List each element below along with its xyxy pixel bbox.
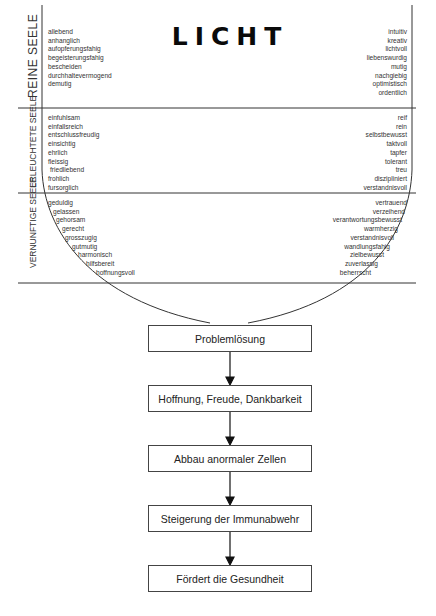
flow-box-abbau-zellen: Abbau anormaler Zellen	[148, 445, 312, 472]
flow-box-label: Steigerung der Immunabwehr	[161, 513, 299, 525]
list-item: nachgiebig	[367, 72, 407, 81]
list-item: hilfsbereit	[48, 260, 135, 269]
list-item: selbstbewusst	[363, 131, 407, 140]
list-item: liebenswurdig	[367, 54, 407, 63]
list-item: demutig	[48, 80, 112, 89]
flow-box-immunabwehr: Steigerung der Immunabwehr	[148, 505, 312, 532]
list-item: verstandnisvoll	[363, 184, 407, 193]
vernunftige-seele-left-list: geduldig gelassen gehorsam gerecht gross…	[48, 199, 135, 277]
list-item: anhanglich	[48, 37, 112, 46]
flow-box-label: Fördert die Gesundheit	[176, 573, 283, 585]
list-item: taktvoll	[363, 140, 407, 149]
list-item: friedliebend	[48, 166, 99, 175]
list-item: frohlich	[48, 175, 99, 184]
list-item: verantwortungsbewusst	[333, 216, 407, 225]
list-item: verstandnisvoll	[333, 234, 407, 243]
list-item: kreativ	[367, 37, 407, 46]
list-item: durchhaltevermogend	[48, 72, 112, 81]
erleuchtete-seele-right-list: reif rein selbstbewusst taktvoll tapfer …	[363, 114, 407, 192]
list-item: bescheiden	[48, 63, 112, 72]
list-item: allebend	[48, 28, 112, 37]
list-item: mutig	[367, 63, 407, 72]
list-item: einsichtig	[48, 140, 99, 149]
list-item: fleissig	[48, 158, 99, 167]
list-item: treu	[363, 166, 407, 175]
list-item: gerecht	[48, 225, 135, 234]
list-item: harmonisch	[48, 251, 135, 260]
reine-seele-left-list: allebend anhanglich aufopferungsfahig be…	[48, 28, 112, 89]
list-item: begeisterungsfahig	[48, 54, 112, 63]
list-item: hoffnungsvoll	[48, 269, 135, 278]
list-item: tapfer	[363, 149, 407, 158]
list-item: warmherzig	[333, 225, 407, 234]
list-item: beherrscht	[333, 269, 407, 278]
list-item: tolerant	[363, 158, 407, 167]
flow-box-problemloesung: Problemlösung	[148, 325, 312, 352]
flow-box-gesundheit: Fördert die Gesundheit	[148, 565, 312, 592]
flow-box-hoffnung: Hoffnung, Freude, Dankbarkeit	[148, 385, 312, 412]
section-label-reine-seele: REINE SEELE	[26, 14, 40, 98]
list-item: reif	[363, 114, 407, 123]
list-item: ehrlich	[48, 149, 99, 158]
list-item: zuverlassig	[333, 260, 407, 269]
list-item: rein	[363, 123, 407, 132]
flow-box-label: Hoffnung, Freude, Dankbarkeit	[158, 393, 301, 405]
list-item: verzeihend	[333, 208, 407, 217]
list-item: grosszugig	[48, 234, 135, 243]
list-item: geduldig	[48, 199, 135, 208]
list-item: gehorsam	[48, 216, 135, 225]
list-item: fursorglich	[48, 184, 99, 193]
vernunftige-seele-right-list: vertrauend verzeihend verantwortungsbewu…	[333, 199, 407, 277]
list-item: intuitiv	[367, 28, 407, 37]
flow-box-label: Problemlösung	[195, 333, 265, 345]
list-item: zielbewusst	[333, 251, 407, 260]
list-item: lichtvoll	[367, 45, 407, 54]
list-item: aufopferungsfahig	[48, 45, 112, 54]
flow-box-label: Abbau anormaler Zellen	[174, 453, 286, 465]
list-item: vertrauend	[333, 199, 407, 208]
list-item: gelassen	[48, 208, 135, 217]
diagram-title: LICHT	[160, 22, 300, 51]
list-item: gutmutig	[48, 243, 135, 252]
list-item: diszipliniert	[363, 175, 407, 184]
section-label-erleuchtete-seele: ERLEUCHTETE SEELE	[28, 96, 38, 188]
list-item: einfuhlsam	[48, 114, 99, 123]
list-item: ordentlich	[367, 89, 407, 98]
list-item: einfallsreich	[48, 123, 99, 132]
erleuchtete-seele-left-list: einfuhlsam einfallsreich entschlussfreud…	[48, 114, 99, 192]
section-label-vernunftige-seele: VERNUNFTIGE SEELE	[28, 177, 38, 268]
list-item: wandlungsfahig	[333, 243, 407, 252]
reine-seele-right-list: intuitiv kreativ lichtvoll liebenswurdig…	[367, 28, 407, 98]
list-item: optimistisch	[367, 80, 407, 89]
list-item: entschlussfreudig	[48, 131, 99, 140]
